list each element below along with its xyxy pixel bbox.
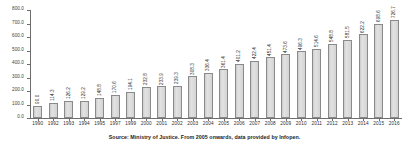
bar-value-label: 581.5 [344, 26, 349, 38]
bar[interactable] [64, 101, 73, 118]
y-tick-label: 100.0 [12, 101, 24, 106]
y-tick-label: 600.0 [12, 33, 24, 38]
x-axis-label: 2010 [294, 121, 310, 126]
bar-value-label: 422.4 [251, 47, 256, 59]
bar[interactable] [312, 49, 321, 118]
bar[interactable] [328, 44, 337, 118]
x-axis-label: 2003 [185, 121, 201, 126]
bar-slot: 361.4 [219, 10, 228, 118]
x-axis-label: 2008 [263, 121, 279, 126]
bar-value-label: 514.6 [313, 35, 318, 47]
x-axis-label: 2001 [154, 121, 170, 126]
bar-slot: 148.8 [95, 10, 104, 118]
bar-value-label: 698.6 [375, 10, 380, 22]
bar[interactable] [359, 34, 368, 118]
bar[interactable] [49, 103, 58, 118]
x-axis-label: 2015 [371, 121, 387, 126]
bar-slot: 401.2 [235, 10, 244, 118]
bar[interactable] [219, 69, 228, 118]
y-tick-label: 0.0 [17, 114, 24, 119]
x-axis-label: 1993 [61, 121, 77, 126]
bar[interactable] [250, 61, 259, 118]
bar-slot: 581.5 [343, 10, 352, 118]
bar[interactable] [80, 101, 89, 118]
x-axis-label: 2005 [216, 121, 232, 126]
bar-value-label: 129.2 [81, 87, 86, 99]
bar-slot: 233.9 [157, 10, 166, 118]
x-axis-label: 2011 [309, 121, 325, 126]
bar-slot: 129.2 [80, 10, 89, 118]
bar-value-label: 548.8 [329, 30, 334, 42]
bar-value-label: 726.7 [391, 6, 396, 18]
bar-slot: 422.4 [250, 10, 259, 118]
y-tick: 0.0 [27, 118, 30, 119]
chart-figure: 0.0100.0200.0300.0400.0500.0600.0700.080… [0, 0, 409, 149]
bar-slot: 194.1 [126, 10, 135, 118]
y-tick-label: 200.0 [12, 87, 24, 92]
bar-value-label: 451.4 [267, 44, 272, 56]
bar[interactable] [95, 98, 104, 118]
bar-value-label: 148.8 [96, 84, 101, 96]
y-tick-label: 500.0 [12, 47, 24, 52]
x-axis-labels: 1990199219931994199519971999200020012002… [30, 121, 402, 131]
bar-value-label: 233.9 [158, 73, 163, 85]
y-tick-label: 300.0 [12, 74, 24, 79]
bar-value-label: 622.2 [360, 21, 365, 33]
bar-slot: 514.6 [312, 10, 321, 118]
bar[interactable] [374, 24, 383, 118]
x-axis-label: 2014 [356, 121, 372, 126]
x-axis-label: 1992 [46, 121, 62, 126]
source-note: Source: Ministry of Justice. From 2005 o… [0, 134, 409, 140]
bar[interactable] [142, 87, 151, 118]
x-axis-label: 1997 [108, 121, 124, 126]
bar[interactable] [126, 92, 135, 118]
bar-value-label: 496.3 [298, 38, 303, 50]
x-axis-label: 2009 [278, 121, 294, 126]
y-tick-label: 400.0 [12, 60, 24, 65]
bar-slot: 239.3 [173, 10, 182, 118]
bar-slot: 622.2 [359, 10, 368, 118]
bar-slot: 232.8 [142, 10, 151, 118]
bar-value-label: 239.3 [174, 72, 179, 84]
bar[interactable] [235, 64, 244, 118]
bar-value-label: 401.2 [236, 50, 241, 62]
bar-value-label: 361.4 [220, 56, 225, 68]
bar-slot: 126.2 [64, 10, 73, 118]
x-axis-label: 2004 [201, 121, 217, 126]
bar[interactable] [157, 86, 166, 118]
bar[interactable] [297, 51, 306, 118]
bar[interactable] [173, 86, 182, 118]
x-axis-label: 2013 [340, 121, 356, 126]
bar-slot: 451.4 [266, 10, 275, 118]
bar-value-label: 126.2 [65, 87, 70, 99]
x-axis-label: 1999 [123, 121, 139, 126]
plot-area: 0.0100.0200.0300.0400.0500.0600.0700.080… [30, 10, 402, 118]
bar-slot: 114.3 [49, 10, 58, 118]
bar[interactable] [33, 106, 42, 118]
bar-slot: 726.7 [390, 10, 399, 118]
x-axis-label: 2012 [325, 121, 341, 126]
bar[interactable] [188, 76, 197, 118]
bar-slot: 698.6 [374, 10, 383, 118]
x-axis-label: 2000 [139, 121, 155, 126]
bar-slot: 496.3 [297, 10, 306, 118]
x-axis-label: 1990 [30, 121, 46, 126]
bar[interactable] [343, 40, 352, 119]
bar[interactable] [266, 57, 275, 118]
bar-slot: 336.4 [204, 10, 213, 118]
y-tick-label: 800.0 [12, 6, 24, 11]
bar-value-label: 473.6 [282, 41, 287, 53]
x-axis-label: 1994 [77, 121, 93, 126]
bar-value-label: 170.6 [112, 81, 117, 93]
bar-slot: 308.3 [188, 10, 197, 118]
x-axis-label: 2006 [232, 121, 248, 126]
bar[interactable] [204, 73, 213, 118]
bar[interactable] [281, 54, 290, 118]
bar-slot: 548.8 [328, 10, 337, 118]
bar[interactable] [111, 95, 120, 118]
y-tick-label: 700.0 [12, 20, 24, 25]
bar-value-label: 114.3 [50, 89, 55, 101]
bar-slot: 473.6 [281, 10, 290, 118]
bar-slot: 170.6 [111, 10, 120, 118]
bar[interactable] [390, 20, 399, 118]
